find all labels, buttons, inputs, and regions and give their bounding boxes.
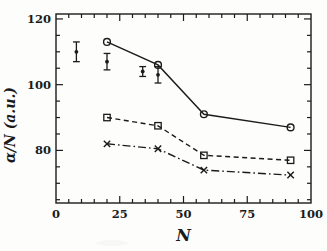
y-tick-label: 120 — [27, 12, 51, 26]
x-tick-label: 25 — [112, 207, 128, 221]
filled-circle-marker — [75, 50, 79, 54]
figure-page: 025507510080100120Nα/N (a.u.) — [0, 0, 327, 251]
x-tick-label: 50 — [175, 207, 191, 221]
chart-canvas: 025507510080100120Nα/N (a.u.) — [0, 0, 327, 251]
filled-circle-marker — [141, 70, 145, 74]
x-axis-label: N — [175, 226, 192, 245]
y-tick-label: 80 — [35, 143, 51, 157]
x-tick-label: 75 — [239, 207, 255, 221]
x-tick-label: 100 — [299, 207, 323, 221]
polarizability-line-plot: 025507510080100120Nα/N (a.u.) — [0, 0, 327, 251]
x-tick-label: 0 — [52, 207, 60, 221]
filled-circle-marker — [156, 73, 160, 77]
scan-artifact — [96, 240, 128, 246]
filled-circle-marker — [105, 60, 109, 64]
y-tick-label: 100 — [27, 78, 51, 92]
y-axis-label: α/N (a.u.) — [2, 87, 18, 163]
